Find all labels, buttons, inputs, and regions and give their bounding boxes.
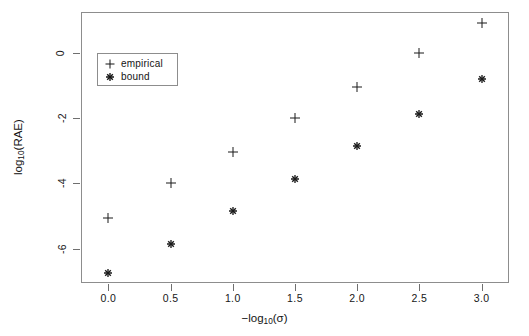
y-axis-title-prefix: log [12, 160, 24, 175]
y-tick-label: -2 [56, 113, 68, 123]
x-tick-mark [482, 284, 483, 291]
x-tick-label: 2.5 [412, 292, 428, 304]
y-axis-title-subscript: 10 [17, 150, 26, 159]
y-tick-mark [73, 183, 80, 184]
y-tick-label: 0 [54, 50, 66, 56]
x-tick-mark [108, 284, 109, 291]
x-tick-label: 0.0 [100, 292, 116, 304]
y-tick-label: -6 [56, 244, 68, 254]
x-axis-title-suffix: (σ) [273, 312, 288, 324]
x-tick-mark [357, 284, 358, 291]
chart-legend: empirical bound [97, 53, 178, 86]
scatter-plot-figure: 0.00.51.01.52.02.53.0 0-2-4-6 −log10(σ) … [0, 0, 529, 336]
x-axis-title-subscript: 10 [264, 317, 273, 326]
y-tick-mark [73, 53, 80, 54]
y-axis-title-suffix: (RAE) [12, 119, 24, 150]
x-tick-label: 1.5 [287, 292, 303, 304]
legend-label: bound [121, 71, 150, 82]
y-tick-label: -4 [56, 178, 68, 188]
legend-label: empirical [121, 58, 163, 69]
x-axis-title-prefix: −log [241, 312, 263, 324]
legend-item-empirical: empirical [103, 57, 163, 70]
x-tick-mark [233, 284, 234, 291]
x-tick-label: 1.0 [225, 292, 241, 304]
x-tick-mark [295, 284, 296, 291]
legend-item-bound: bound [103, 70, 150, 83]
x-tick-mark [419, 284, 420, 291]
y-tick-mark [73, 118, 80, 119]
plus-icon [103, 57, 116, 70]
x-tick-label: 3.0 [474, 292, 490, 304]
x-axis-title: −log10(σ) [0, 312, 529, 326]
y-axis-title: log10(RAE) [12, 97, 26, 197]
x-tick-label: 2.0 [349, 292, 365, 304]
asterisk-icon [103, 70, 116, 83]
x-tick-label: 0.5 [163, 292, 179, 304]
y-tick-mark [73, 249, 80, 250]
x-tick-mark [171, 284, 172, 291]
